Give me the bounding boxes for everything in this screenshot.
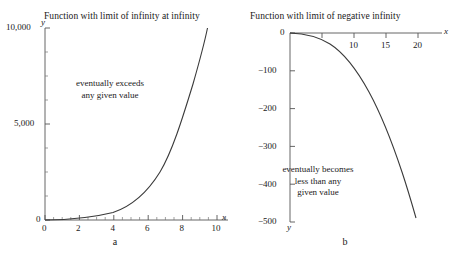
panel-b-ytick-minus100: −100 [258, 65, 277, 75]
panel-a-x-axis-name: x [222, 212, 226, 222]
panel-a-xtick-6: 6 [145, 223, 150, 233]
panel-b-x-ticks [322, 33, 418, 38]
panel-a-xtick-10: 10 [212, 223, 221, 233]
panel-b-xtick-15: 15 [381, 40, 390, 50]
panel-b-ytick-minus200: −200 [258, 103, 277, 113]
figure-container: Function with limit of infinity at infin… [0, 0, 460, 262]
panel-a-y-axis-name: y [41, 17, 45, 27]
panel-b-xtick-10: 10 [349, 40, 358, 50]
panel-b-annotation: eventually becomes less than any given v… [258, 164, 378, 199]
panel-a-ytick-5000: 5,000 [14, 118, 34, 128]
panel-b-xtick-20: 20 [413, 40, 422, 50]
panel-a-annotation: eventually exceeds any given value [40, 78, 180, 101]
panel-b-y-axis-name: y [287, 222, 291, 232]
panel-a: Function with limit of infinity at infin… [0, 0, 230, 262]
panel-a-xtick-4: 4 [111, 223, 116, 233]
panel-b-ytick-0: 0 [280, 27, 285, 37]
panel-a-xtick-0: 0 [42, 223, 47, 233]
panel-a-plot [0, 0, 230, 262]
panel-a-xtick-2: 2 [76, 223, 81, 233]
panel-b-caption: b [230, 236, 460, 247]
panel-b-ytick-minus500: −500 [258, 216, 277, 226]
panel-b-ytick-minus300: −300 [258, 141, 277, 151]
panel-a-curve [45, 28, 208, 220]
panel-a-ytick-0: 0 [36, 214, 41, 224]
panel-a-ytick-10000: 10,000 [6, 22, 31, 32]
panel-a-caption: a [0, 236, 230, 247]
panel-a-y-major-ticks [45, 28, 50, 220]
panel-b-x-axis-name: x [444, 26, 448, 36]
panel-b: Function with limit of negative infinity [230, 0, 460, 262]
panel-a-xtick-8: 8 [180, 223, 185, 233]
